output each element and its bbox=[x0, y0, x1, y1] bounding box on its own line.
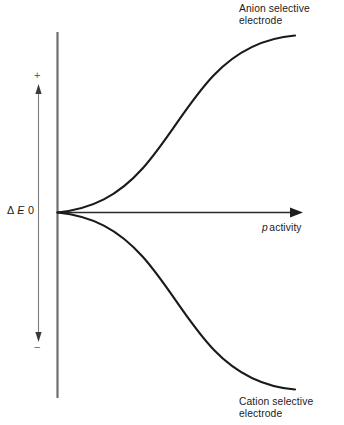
y-axis-zero-tick: 0 bbox=[28, 204, 34, 216]
delta-symbol: Δ bbox=[7, 204, 14, 216]
x-axis-label: pactivity bbox=[262, 222, 302, 234]
scale-arrow-up-icon bbox=[35, 84, 41, 94]
anion-response-curve bbox=[58, 36, 296, 213]
cation-electrode-label: Cation selective electrode bbox=[239, 396, 313, 419]
x-axis-arrow-icon bbox=[290, 208, 303, 218]
figure-canvas bbox=[0, 0, 344, 425]
anion-electrode-label: Anion selective electrode bbox=[239, 3, 310, 26]
positive-polarity-label: + bbox=[34, 70, 41, 82]
y-axis-label: Δ E 0 bbox=[7, 205, 34, 217]
negative-polarity-label: − bbox=[34, 342, 41, 354]
electrode-response-figure: Anion selective electrode Cation selecti… bbox=[0, 0, 344, 425]
x-axis-label-text: activity bbox=[269, 222, 301, 233]
cation-response-curve bbox=[58, 213, 296, 390]
y-axis-variable: E bbox=[17, 204, 25, 216]
